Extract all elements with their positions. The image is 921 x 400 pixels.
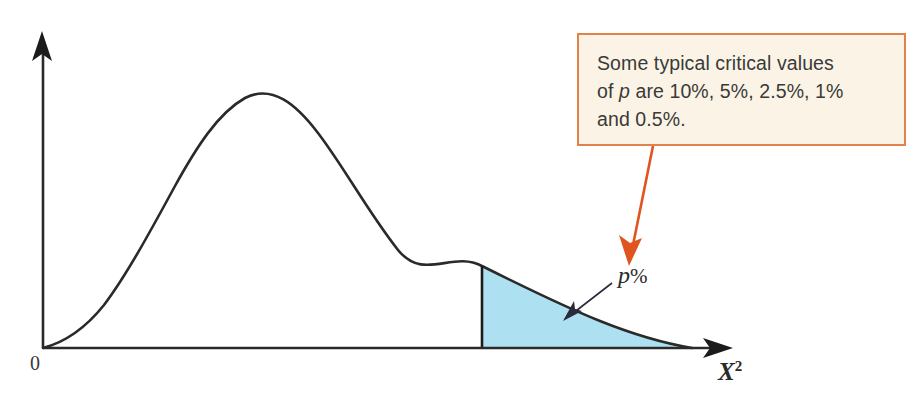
callout-line-3: and 0.5%. xyxy=(597,108,686,130)
region-pointer-line xyxy=(572,283,612,314)
shaded-tail-region xyxy=(482,266,692,348)
callout-line-2-prefix: of xyxy=(597,80,619,102)
tail-region-label: p% xyxy=(618,262,648,289)
x-axis-label-base: X xyxy=(718,358,735,385)
callout-text: Some typical critical valuesof p are 10%… xyxy=(597,49,888,133)
callout-line-1: Some typical critical values xyxy=(597,52,834,74)
callout-variable-p: p xyxy=(619,80,630,102)
critical-values-callout: Some typical critical valuesof p are 10%… xyxy=(577,33,906,146)
x-axis-label: X2 xyxy=(718,358,742,386)
tail-region-label-percent: % xyxy=(630,264,648,288)
x-axis-label-exponent: 2 xyxy=(735,358,743,374)
callout-arrow-line xyxy=(632,146,653,250)
figure-canvas: Some typical critical valuesof p are 10%… xyxy=(0,0,921,400)
origin-label: 0 xyxy=(30,352,40,375)
callout-line-2-suffix: are 10%, 5%, 2.5%, 1% xyxy=(630,80,844,102)
tail-region-label-variable: p xyxy=(618,262,630,288)
